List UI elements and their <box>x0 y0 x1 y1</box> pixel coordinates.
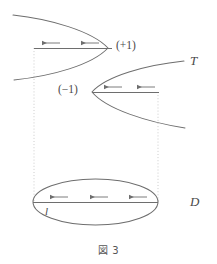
label-line-l: l <box>45 206 48 217</box>
figure-caption: 図 3 <box>0 242 217 257</box>
figure-diagram-canvas <box>0 0 217 264</box>
lower-parabola-curve <box>92 61 185 128</box>
label-minus-one: (−1) <box>58 84 78 96</box>
label-surface-t: T <box>190 54 197 67</box>
label-plus-one: (+1) <box>116 40 136 52</box>
figure-3-container: (+1) (−1) T D l 図 3 <box>0 0 217 264</box>
upper-parabola-curve <box>13 15 108 80</box>
label-disk-d: D <box>190 195 199 208</box>
